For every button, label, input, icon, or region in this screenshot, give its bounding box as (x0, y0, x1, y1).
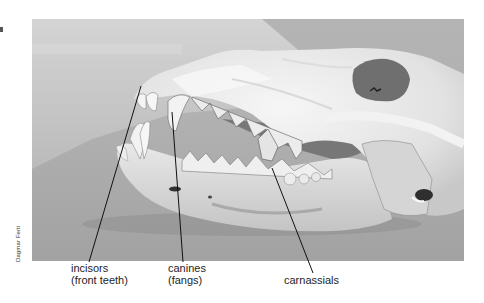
carnassials-label: carnassials (284, 274, 339, 286)
edge-mark (0, 27, 3, 32)
incisors-label-line1: incisors (71, 262, 128, 274)
canines-label: canines (fangs) (168, 262, 206, 286)
labeled-skull-figure: Dagmar Ferti incisors (front teeth) cani… (0, 0, 484, 303)
incisors-label: incisors (front teeth) (71, 262, 128, 286)
skull-photo (32, 19, 464, 261)
incisors-label-line2: (front teeth) (71, 274, 128, 286)
canines-label-line2: (fangs) (168, 274, 206, 286)
photo-credit: Dagmar Ferti (15, 226, 21, 262)
carnassials-label-line1: carnassials (284, 274, 339, 286)
canines-label-line1: canines (168, 262, 206, 274)
